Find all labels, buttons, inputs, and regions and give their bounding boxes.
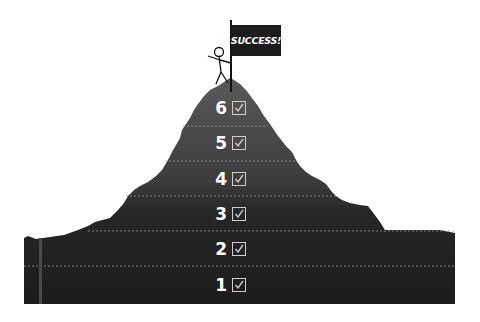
checkbox-checked-icon — [232, 242, 246, 256]
step-6: 6 — [213, 98, 246, 118]
success-mountain-diagram: SUCCESS! 6 5 4 3 2 1 — [0, 0, 480, 322]
step-number: 4 — [213, 169, 227, 189]
checkbox-checked-icon — [232, 101, 246, 115]
checkbox-checked-icon — [232, 278, 246, 292]
step-number: 5 — [213, 133, 227, 153]
step-number: 2 — [213, 239, 227, 259]
step-number: 3 — [213, 204, 227, 224]
step-5: 5 — [213, 133, 246, 153]
step-number: 1 — [213, 275, 227, 295]
step-number: 6 — [213, 98, 227, 118]
step-2: 2 — [213, 239, 246, 259]
stick-figure-icon — [208, 48, 231, 85]
checkbox-checked-icon — [232, 172, 246, 186]
edge-stripe — [39, 238, 42, 304]
success-flag: SUCCESS! — [231, 25, 281, 56]
checkbox-checked-icon — [232, 136, 246, 150]
step-4: 4 — [213, 169, 246, 189]
step-3: 3 — [213, 204, 246, 224]
checkbox-checked-icon — [232, 207, 246, 221]
step-1: 1 — [213, 275, 246, 295]
